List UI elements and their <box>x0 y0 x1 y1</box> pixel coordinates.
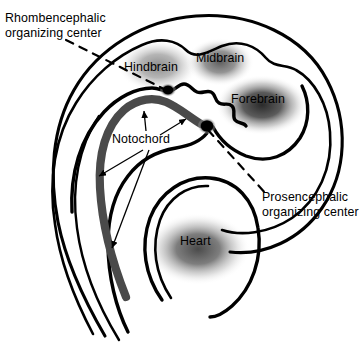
callout-rhombencephalic-line2: organizing center <box>5 26 102 40</box>
label-forebrain: Forebrain <box>231 92 285 107</box>
diagram-canvas <box>0 0 363 345</box>
embryo-diagram-figure: Rhombencephalic organizing center Prosen… <box>0 0 363 345</box>
callout-prosencephalic-line1: Prosencephalic <box>262 190 348 204</box>
notochord-arrow-top <box>144 111 146 131</box>
callout-prosencephalic-line2: organizing center <box>262 205 359 219</box>
callout-prosencephalic-organizing-center: Prosencephalic organizing center <box>262 190 359 219</box>
callout-rhombencephalic-line1: Rhombencephalic <box>5 11 106 25</box>
callout-rhombencephalic-organizing-center: Rhombencephalic organizing center <box>5 11 106 40</box>
label-notochord: Notochord <box>112 132 170 147</box>
label-heart: Heart <box>180 234 211 249</box>
heart-shading <box>146 213 250 285</box>
prosencephalic-leader-dashed <box>208 130 268 196</box>
label-midbrain: Midbrain <box>196 51 244 66</box>
label-hindbrain: Hindbrain <box>124 60 178 75</box>
